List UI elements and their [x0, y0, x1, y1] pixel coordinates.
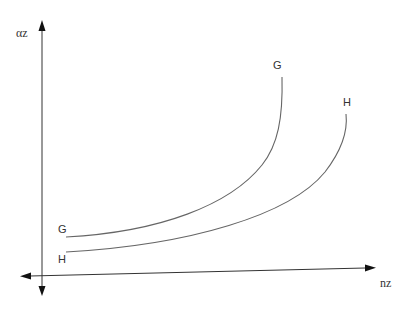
x-axis [20, 265, 376, 280]
diagram-canvas: αz nz G H G H [0, 0, 407, 313]
diagram-svg [0, 0, 407, 313]
curve-h-start-label: H [58, 254, 66, 265]
x-axis-left-arrow-icon [20, 273, 31, 280]
curve-h-end-label: H [343, 97, 351, 108]
y-axis-label: αz [16, 27, 28, 39]
curve-g-end-label: G [273, 60, 282, 71]
x-axis-right-arrow-icon [365, 265, 376, 272]
curve-h [66, 114, 346, 252]
curve-g-start-label: G [58, 224, 67, 235]
y-axis-up-arrow-icon [39, 20, 46, 31]
y-axis-down-arrow-icon [39, 286, 46, 296]
y-axis [39, 20, 46, 296]
x-axis-label: nz [380, 277, 391, 289]
curve-g [66, 77, 282, 237]
